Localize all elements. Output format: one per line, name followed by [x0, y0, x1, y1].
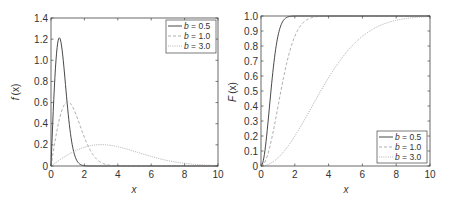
y-tick-label: 1.2: [34, 34, 48, 45]
cdf-legend-entry-0: b = 0.5: [395, 132, 422, 142]
y-tick-label: 0.6: [244, 71, 258, 82]
pdf-curve-0: [51, 38, 218, 166]
pdf-curves: [51, 38, 218, 166]
cdf-ylabel: F(x): [227, 82, 238, 102]
y-tick-label: 0.2: [244, 131, 258, 142]
pdf-curve-1: [51, 102, 218, 166]
y-tick-label: 0.2: [34, 139, 48, 150]
x-tick-label: 8: [182, 169, 188, 180]
cdf-xlabel: x: [343, 184, 350, 195]
y-tick-label: 0.1: [244, 146, 258, 157]
cdf-legend: b = 0.5 b = 1.0 b = 3.0: [377, 131, 427, 163]
x-tick-label: 6: [148, 169, 154, 180]
y-tick-label: 1.0: [34, 55, 48, 66]
y-tick-label: 0.9: [244, 26, 258, 37]
cdf-chart: 024681000.10.20.30.40.50.60.70.80.91.0 F…: [227, 11, 436, 196]
pdf-legend-entry-2: b = 3.0: [184, 41, 211, 51]
figure: 024681000.20.40.60.81.01.21.4 f(x) x b =…: [0, 0, 449, 201]
x-tick-label: 2: [82, 169, 88, 180]
y-tick-label: 0.4: [244, 101, 258, 112]
cdf-legend-entry-2: b = 3.0: [395, 152, 422, 162]
y-tick-label: 0: [42, 161, 48, 172]
y-tick-label: 0.7: [244, 56, 258, 67]
x-tick-label: 8: [393, 169, 399, 180]
y-tick-label: 0: [252, 161, 258, 172]
pdf-curve-2: [51, 145, 218, 166]
x-tick-label: 4: [115, 169, 121, 180]
y-tick-label: 0.6: [34, 97, 48, 108]
pdf-legend-entry-1: b = 1.0: [184, 31, 211, 41]
x-tick-label: 4: [326, 169, 332, 180]
y-tick-label: 0.5: [244, 86, 258, 97]
pdf-xlabel: x: [131, 184, 138, 195]
x-tick-label: 10: [212, 169, 224, 180]
pdf-legend-entry-0: b = 0.5: [184, 21, 211, 31]
y-tick-label: 0.3: [244, 116, 258, 127]
pdf-ylabel: f(x): [10, 84, 21, 100]
x-tick-label: 0: [258, 169, 264, 180]
x-tick-label: 6: [360, 169, 366, 180]
y-tick-label: 1.4: [34, 13, 48, 24]
x-tick-label: 2: [292, 169, 298, 180]
y-tick-label: 0.8: [244, 41, 258, 52]
pdf-legend: b = 0.5 b = 1.0 b = 3.0: [166, 20, 216, 53]
pdf-chart: 024681000.20.40.60.81.01.21.4 f(x) x b =…: [10, 13, 224, 196]
y-tick-label: 1.0: [244, 11, 258, 22]
y-tick-label: 0.4: [34, 118, 48, 129]
x-tick-label: 0: [48, 169, 54, 180]
x-tick-label: 10: [424, 169, 436, 180]
cdf-legend-entry-1: b = 1.0: [395, 142, 422, 152]
y-tick-label: 0.8: [34, 76, 48, 87]
